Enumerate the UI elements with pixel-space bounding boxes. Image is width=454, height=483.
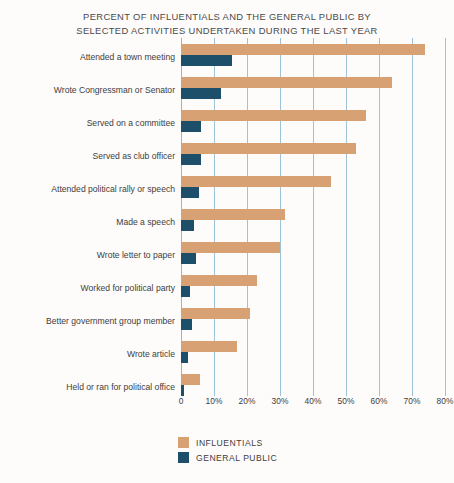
category-label: Better government group member: [0, 316, 175, 326]
category-label: Attended political rally or speech: [0, 184, 175, 194]
tick-label: 30%: [272, 396, 289, 406]
gridline-50%: [346, 38, 347, 396]
category-label: Worked for political party: [0, 283, 175, 293]
category-label: Wrote article: [0, 349, 175, 359]
legend-swatch-icon: [178, 437, 189, 448]
tick-label: 40%: [305, 396, 322, 406]
plot-area: [181, 38, 422, 396]
legend-item: GENERAL PUBLIC: [178, 450, 277, 465]
gridline-80%: [445, 38, 446, 396]
bar-influentials: [181, 44, 425, 55]
bar-general-public: [181, 385, 184, 396]
category-label: Wrote letter to paper: [0, 250, 175, 260]
legend-label: GENERAL PUBLIC: [196, 453, 277, 463]
bar-general-public: [181, 220, 194, 231]
bar-influentials: [181, 275, 257, 286]
bar-influentials: [181, 143, 356, 154]
chart-legend: INFLUENTIALSGENERAL PUBLIC: [178, 435, 277, 465]
bar-influentials: [181, 176, 331, 187]
bar-general-public: [181, 88, 221, 99]
legend-swatch-icon: [178, 452, 189, 463]
bar-general-public: [181, 253, 196, 264]
bar-influentials: [181, 374, 200, 385]
bar-general-public: [181, 286, 190, 297]
category-label: Wrote Congressman or Senator: [0, 85, 175, 95]
legend-label: INFLUENTIALS: [196, 438, 263, 448]
tick-label: 0: [179, 396, 184, 406]
bar-influentials: [181, 308, 250, 319]
bar-general-public: [181, 352, 188, 363]
category-label: Made a speech: [0, 217, 175, 227]
bar-influentials: [181, 209, 285, 220]
tick-label: 60%: [371, 396, 388, 406]
tick-label: 80%: [437, 396, 454, 406]
bar-general-public: [181, 121, 201, 132]
bar-influentials: [181, 341, 237, 352]
category-label: Served as club officer: [0, 151, 175, 161]
tick-label: 20%: [239, 396, 256, 406]
gridline-40%: [313, 38, 314, 396]
gridline-70%: [412, 38, 413, 396]
category-label: Held or ran for political office: [0, 382, 175, 392]
chart-title: PERCENT OF INFLUENTIALS AND THE GENERAL …: [0, 10, 454, 38]
bar-influentials: [181, 242, 280, 253]
bar-general-public: [181, 154, 201, 165]
category-label: Served on a committee: [0, 118, 175, 128]
category-label: Attended a town meeting: [0, 52, 175, 62]
bar-influentials: [181, 77, 392, 88]
bar-general-public: [181, 319, 192, 330]
bar-influentials: [181, 110, 366, 121]
value-axis: 010%20%30%40%50%60%70%80%: [0, 396, 454, 414]
gridline-60%: [379, 38, 380, 396]
legend-item: INFLUENTIALS: [178, 435, 277, 450]
tick-label: 10%: [206, 396, 223, 406]
category-axis-labels: Attended a town meetingWrote Congressman…: [0, 38, 175, 396]
tick-label: 50%: [338, 396, 355, 406]
bar-general-public: [181, 55, 232, 66]
chart-figure: PERCENT OF INFLUENTIALS AND THE GENERAL …: [0, 0, 454, 483]
bar-general-public: [181, 187, 199, 198]
tick-label: 70%: [404, 396, 421, 406]
